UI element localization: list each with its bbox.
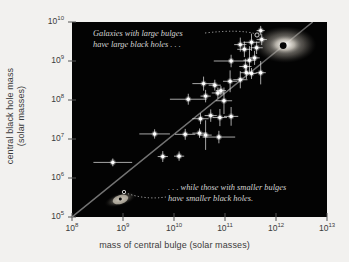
y-tick-label-6: 106 — [34, 172, 64, 182]
y-tick-label-10: 1010 — [34, 16, 64, 26]
y-tick-label-9: 109 — [34, 55, 64, 65]
x-tick-label-8: 108 — [57, 223, 87, 233]
x-axis-title: mass of central bulge (solar masses) — [0, 240, 349, 250]
y-tick-label-5: 105 — [34, 211, 64, 221]
annotation-large-bulges-line2: have large black holes . . . — [93, 40, 181, 49]
y-tick-label-7: 107 — [34, 133, 64, 143]
x-tick-label-11: 1011 — [210, 223, 240, 233]
x-tick-label-10: 1010 — [159, 223, 189, 233]
x-tick-label-12: 1012 — [261, 223, 291, 233]
y-axis-title: central black hole mass (solar masses) — [5, 31, 27, 201]
x-tick-label-13: 1013 — [312, 223, 342, 233]
annotation-small-bulges-line2: have smaller black holes. — [168, 194, 253, 203]
y-tick-label-8: 108 — [34, 94, 64, 104]
annotation-large-bulges-line1: Galaxies with large bulges — [93, 29, 183, 38]
y-axis-title-line1: central black hole mass — [5, 31, 16, 201]
y-axis-title-line2: (solar masses) — [16, 31, 27, 201]
x-tick-label-9: 109 — [108, 223, 138, 233]
annotation-small-bulges-line1: . . . while those with smaller bulges — [168, 183, 286, 192]
